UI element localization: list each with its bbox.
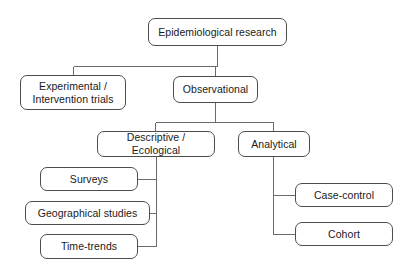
node-geographical-studies[interactable]: Geographical studies <box>25 201 150 225</box>
node-time-trends[interactable]: Time-trends <box>40 234 138 259</box>
node-label: Analytical <box>247 138 300 151</box>
node-label: Geographical studies <box>34 207 142 220</box>
node-label: Cohort <box>324 228 364 241</box>
node-descriptive-ecological[interactable]: Descriptive / Ecological <box>97 131 215 157</box>
node-label: Epidemiological research <box>154 26 281 39</box>
node-observational[interactable]: Observational <box>173 76 258 103</box>
node-case-control[interactable]: Case-control <box>295 183 393 207</box>
node-epidemiological-research[interactable]: Epidemiological research <box>148 18 287 46</box>
node-surveys[interactable]: Surveys <box>40 167 138 191</box>
node-analytical[interactable]: Analytical <box>238 131 310 157</box>
node-label: Experimental / Intervention trials <box>29 80 118 106</box>
node-label: Time-trends <box>57 240 121 253</box>
node-label: Descriptive / Ecological <box>98 131 214 157</box>
node-experimental-intervention-trials[interactable]: Experimental / Intervention trials <box>20 75 126 110</box>
flowchart-canvas: Epidemiological research Experimental / … <box>0 0 408 273</box>
node-label: Case-control <box>310 189 378 202</box>
node-cohort[interactable]: Cohort <box>295 222 393 246</box>
node-label: Surveys <box>66 173 112 186</box>
node-label: Observational <box>179 83 252 96</box>
